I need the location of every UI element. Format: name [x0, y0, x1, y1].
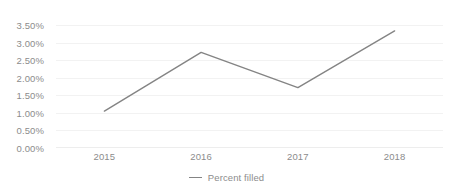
chart-legend: Percent filled — [0, 172, 453, 183]
y-axis-tick-label: 0.00% — [17, 143, 44, 154]
series-line — [104, 31, 394, 111]
y-axis-tick-label: 1.50% — [17, 90, 44, 101]
y-axis-tick-label: 1.00% — [17, 107, 44, 118]
x-axis-tick-label: 2016 — [190, 151, 212, 162]
y-axis-tick-label: 2.00% — [17, 72, 44, 83]
y-axis: 0.00%0.50%1.00%1.50%2.00%2.50%3.00%3.50% — [0, 25, 50, 148]
y-axis-tick-label: 3.00% — [17, 37, 44, 48]
x-axis-tick-label: 2017 — [287, 151, 309, 162]
plot-area — [56, 25, 443, 148]
x-axis-tick-label: 2015 — [94, 151, 116, 162]
line-chart: 0.00%0.50%1.00%1.50%2.00%2.50%3.00%3.50%… — [0, 0, 453, 192]
y-axis-tick-label: 0.50% — [17, 125, 44, 136]
x-axis-baseline — [56, 147, 443, 148]
x-axis: 2015201620172018 — [56, 151, 443, 167]
y-axis-tick-label: 3.50% — [17, 20, 44, 31]
x-axis-tick-label: 2018 — [384, 151, 406, 162]
legend-line-marker-icon — [189, 177, 202, 179]
y-axis-tick-label: 2.50% — [17, 55, 44, 66]
legend-item-percent-filled[interactable]: Percent filled — [189, 172, 264, 183]
legend-item-label: Percent filled — [208, 172, 264, 183]
series-percent-filled — [56, 25, 443, 148]
